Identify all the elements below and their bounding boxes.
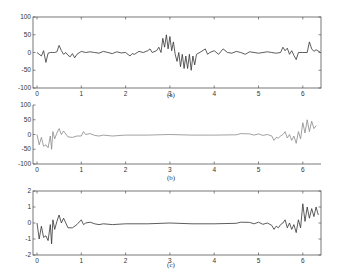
axes-frame xyxy=(33,17,321,88)
y-tick-label: -2 xyxy=(25,251,31,258)
x-tick-label: 2 xyxy=(124,166,128,173)
x-tick-label: 2 xyxy=(124,257,128,264)
x-tick-label: 0 xyxy=(35,90,39,97)
x-tick-label: 2 xyxy=(124,90,128,97)
series-line-b xyxy=(37,120,316,150)
y-tick-label: 1 xyxy=(27,203,31,210)
panel-caption: (b) xyxy=(167,174,176,182)
y-tick-label: 0 xyxy=(27,49,31,56)
y-tick-label: 0 xyxy=(27,131,31,138)
x-tick-label: 1 xyxy=(79,90,83,97)
y-tick-label: -100 xyxy=(18,160,31,167)
x-tick-label: 1 xyxy=(79,257,83,264)
panel-caption: (a) xyxy=(167,91,175,99)
panel-c: 0123456210-1-2(c) xyxy=(25,187,321,269)
x-tick-label: 3 xyxy=(168,166,172,173)
x-tick-label: 5 xyxy=(257,90,261,97)
y-tick-label: 2 xyxy=(27,187,31,194)
y-tick-label: 100 xyxy=(20,101,31,108)
x-tick-label: 4 xyxy=(212,257,216,264)
y-tick-label: -100 xyxy=(18,84,31,91)
panel-b: 0123456100500-50-100(b) xyxy=(18,101,321,182)
chart-figure: 0123456100500-50-100(a)0123456100500-50-… xyxy=(0,0,337,277)
y-tick-label: 100 xyxy=(20,13,31,20)
y-tick-label: 50 xyxy=(24,31,32,38)
x-tick-label: 6 xyxy=(301,166,305,173)
panel-a: 0123456100500-50-100(a) xyxy=(18,13,321,99)
y-tick-label: 50 xyxy=(24,116,32,123)
x-tick-label: 5 xyxy=(257,257,261,264)
x-tick-label: 6 xyxy=(301,257,305,264)
y-tick-label: -50 xyxy=(22,145,32,152)
y-tick-label: -50 xyxy=(22,66,32,73)
y-tick-label: -1 xyxy=(25,235,31,242)
y-tick-label: 0 xyxy=(27,219,31,226)
x-tick-label: 5 xyxy=(257,166,261,173)
series-line-a xyxy=(37,35,321,71)
x-tick-label: 0 xyxy=(35,166,39,173)
x-tick-label: 4 xyxy=(212,166,216,173)
x-tick-label: 6 xyxy=(301,90,305,97)
x-tick-label: 1 xyxy=(79,166,83,173)
panel-caption: (c) xyxy=(167,261,175,269)
x-tick-label: 4 xyxy=(212,90,216,97)
series-line-c xyxy=(37,204,318,244)
x-tick-label: 0 xyxy=(35,257,39,264)
